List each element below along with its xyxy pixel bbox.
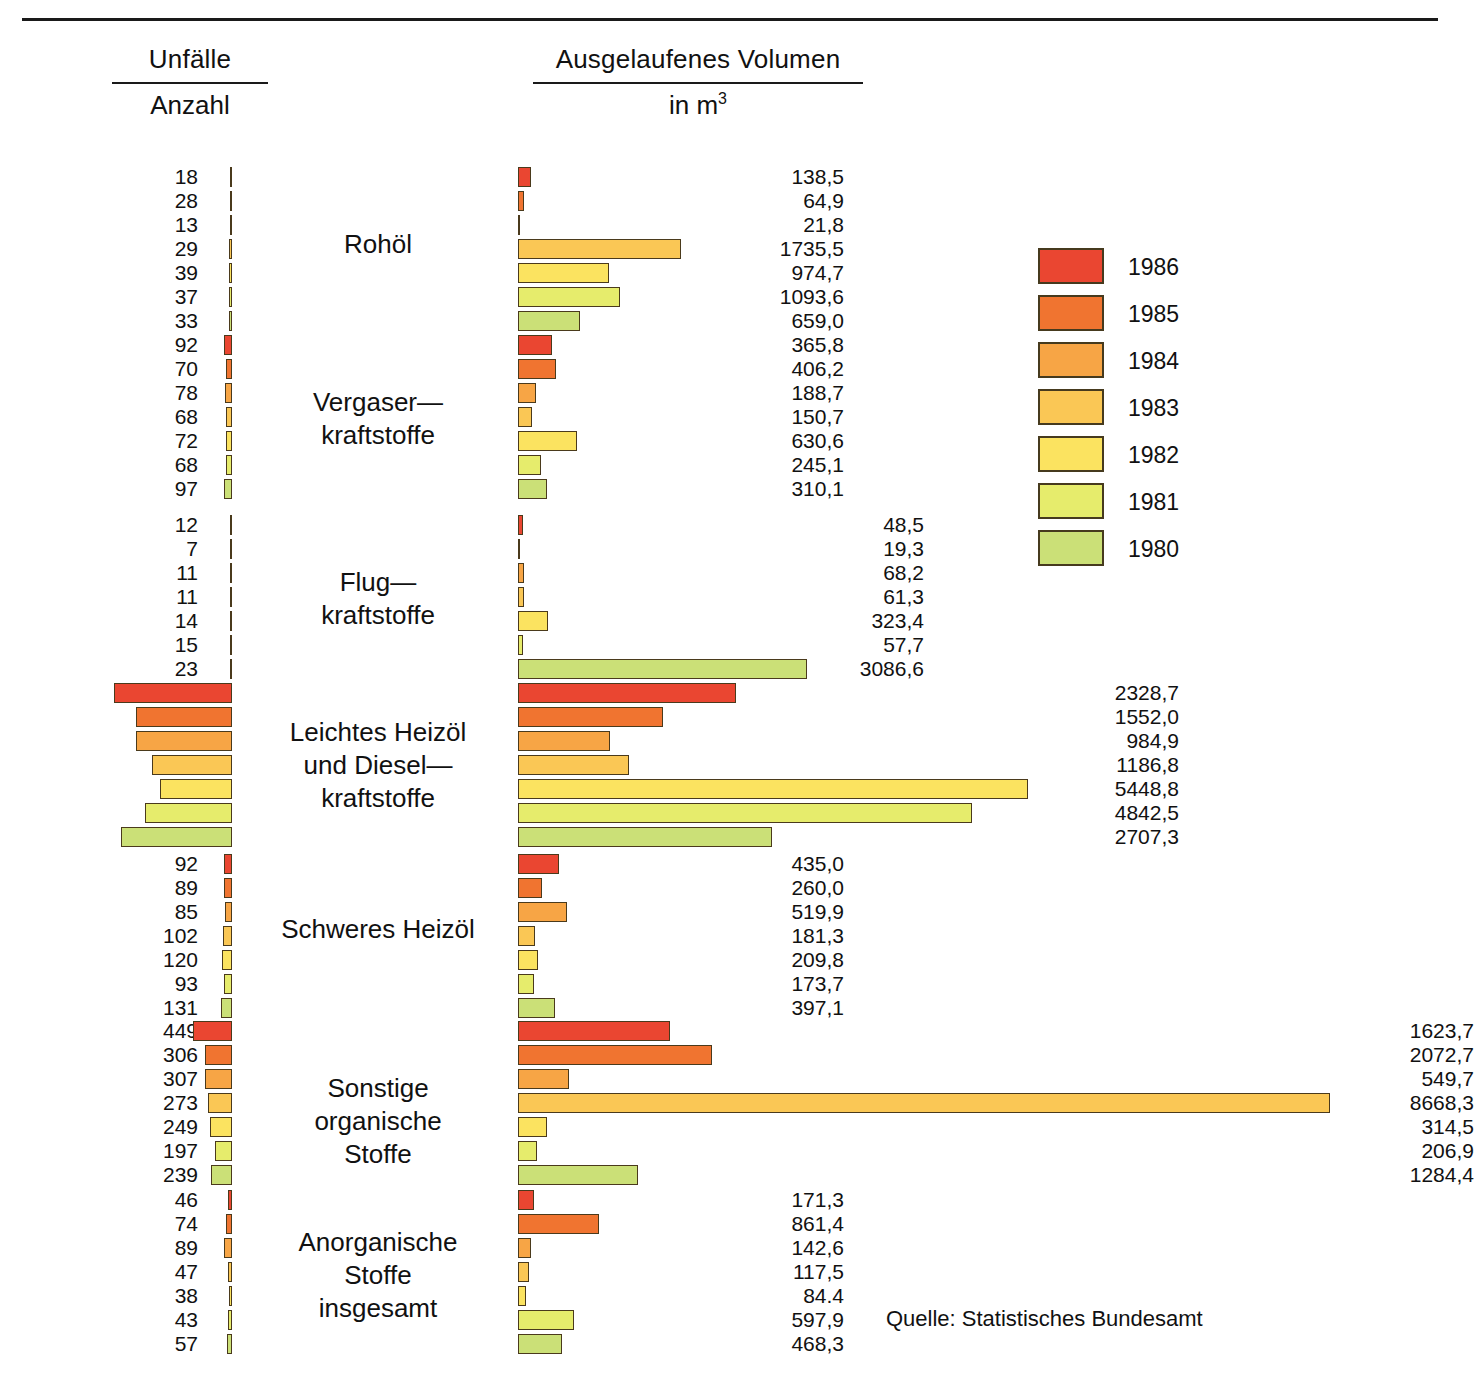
chart-row: 43597,9 [0,1308,1460,1332]
volume-value-label: 206,9 [1344,1139,1474,1163]
volume-value-label: 61,3 [794,585,924,609]
volume-bar [518,878,542,898]
volume-bar [518,683,736,703]
volume-value-label: 310,1 [714,477,844,501]
chart-row: 13452328,7 [0,681,1460,705]
chart-group: 13452328,710951552,01097984,99131186,882… [0,681,1460,849]
volume-bar [518,854,559,874]
accidents-bar [121,827,232,847]
volume-bar [518,287,620,307]
volume-value-label: 1623,7 [1344,1019,1474,1043]
unfaelle-header-rule [112,82,268,84]
category-label: Rohöl [228,228,528,261]
accidents-value-label: 306 [0,1043,208,1067]
volume-value-label: 549,7 [1344,1067,1474,1091]
accidents-value-label: 11 [0,585,208,609]
volume-value-label: 19,3 [794,537,924,561]
accidents-value-label: 28 [0,189,208,213]
chart-row: 120209,8 [0,948,1460,972]
volume-bar [518,707,663,727]
volume-bar [518,167,531,187]
accidents-value-label: 12 [0,513,208,537]
volume-value-label: 48,5 [794,513,924,537]
chart-group: 1248,5719,31168,21161,314323,41557,72330… [0,513,1460,681]
volume-value-label: 171,3 [714,1188,844,1212]
volume-value-label: 5448,8 [1049,777,1179,801]
category-label: Anorganische Stoffe insgesamt [228,1226,528,1325]
chart-row: 1248,5 [0,513,1460,537]
accidents-bar [227,1334,232,1354]
accidents-bar [230,191,232,211]
accidents-bar [230,659,232,679]
chart-row: 131397,1 [0,996,1460,1020]
volume-bar [518,1214,599,1234]
volumen-subtitle: in m3 [508,90,888,121]
volume-bar [518,455,541,475]
chart-row: 4491623,7 [0,1019,1460,1043]
accidents-bar [228,1190,232,1210]
volume-value-label: 3086,6 [794,657,924,681]
volume-value-label: 314,5 [1344,1115,1474,1139]
chart-row: 68245,1 [0,453,1460,477]
accidents-value-label: 43 [0,1308,208,1332]
accidents-bar [160,779,232,799]
volume-bar [518,779,1028,799]
volume-value-label: 8668,3 [1344,1091,1474,1115]
legend-swatch [1038,342,1104,378]
accidents-bar [229,263,232,283]
volume-value-label: 2328,7 [1049,681,1179,705]
volume-bar [518,731,610,751]
volume-value-label: 1186,8 [1049,753,1179,777]
volume-value-label: 188,7 [714,381,844,405]
volume-value-label: 68,2 [794,561,924,585]
accidents-bar [221,998,232,1018]
volume-bar [518,1165,638,1185]
accidents-value-label: 89 [0,1236,208,1260]
volume-bar [518,359,556,379]
chart-row: 249314,5 [0,1115,1460,1139]
accidents-value-label: 102 [0,924,208,948]
accidents-value-label: 13 [0,213,208,237]
volume-value-label: 519,9 [714,900,844,924]
chart-row: 8285448,8 [0,777,1460,801]
volume-bar [518,1190,534,1210]
chart-group: 46171,374861,489142,647117,53884.443597,… [0,1188,1460,1356]
chart-row: 2391284,4 [0,1163,1460,1187]
volume-bar [518,950,538,970]
chart-row: 85519,9 [0,900,1460,924]
volume-value-label: 1735,5 [714,237,844,261]
volume-value-label: 209,8 [714,948,844,972]
accidents-value-label: 23 [0,657,208,681]
legend-year-label: 1982 [1128,440,1179,470]
volumen-header-rule [533,82,863,84]
volume-value-label: 260,0 [714,876,844,900]
legend-year-label: 1980 [1128,534,1179,564]
accidents-bar [224,854,232,874]
accidents-value-label: 68 [0,405,208,429]
volume-value-label: 974,7 [714,261,844,285]
accidents-bar [136,731,232,751]
chart-row: 10951552,0 [0,705,1460,729]
accidents-value-label: 29 [0,237,208,261]
volume-bar [518,191,524,211]
accidents-value-label: 46 [0,1188,208,1212]
chart-group: 18138,52864,91321,8291735,539974,7371093… [0,165,1460,333]
volume-value-label: 245,1 [714,453,844,477]
volume-value-label: 150,7 [714,405,844,429]
accidents-bar [226,359,232,379]
accidents-value-label: 449 [0,1019,208,1043]
accidents-bar [114,683,232,703]
accidents-bar [152,755,232,775]
chart-row: 97310,1 [0,477,1460,501]
chart-row: 291735,5 [0,237,1460,261]
accidents-bar [224,479,232,499]
volume-value-label: 468,3 [714,1332,844,1356]
volume-bar [518,635,523,655]
accidents-value-label: 33 [0,309,208,333]
category-label: Schweres Heizöl [228,913,528,946]
legend-year-label: 1984 [1128,346,1179,376]
volume-bar [518,239,681,259]
unfaelle-subtitle: Anzahl [92,90,288,121]
chart-row: 89142,6 [0,1236,1460,1260]
accidents-value-label: 89 [0,876,208,900]
